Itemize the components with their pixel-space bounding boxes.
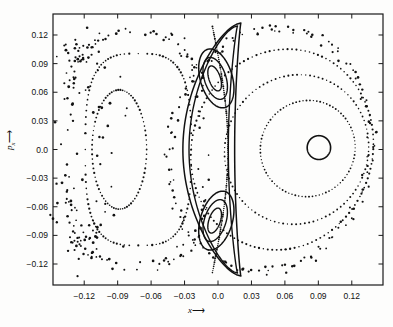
poincare-section-plot	[0, 0, 393, 327]
x-tick-label: 0.03	[243, 291, 260, 301]
series-right-middle-torus	[224, 74, 370, 225]
y-tick-label: −0.12	[12, 259, 48, 269]
x-tick-label: 0.06	[277, 291, 294, 301]
y-axis-label: px⟶	[4, 131, 16, 150]
y-tick-label: 0.06	[12, 87, 48, 97]
series-left-middle-torus	[84, 53, 192, 247]
x-axis-arrow-icon: ⟶	[192, 305, 204, 315]
series-island-upper-inner	[208, 66, 222, 91]
series-right-fixed-point-orbit	[307, 136, 330, 160]
x-tick-label: −0.03	[174, 291, 196, 301]
y-tick-label: 0.0	[12, 145, 48, 155]
x-axis-label: x⟶	[188, 305, 204, 315]
x-tick-label: −0.06	[140, 291, 162, 301]
series-left-outer-chaotic-band	[60, 28, 210, 271]
x-tick-label: 0.09	[310, 291, 327, 301]
y-axis-label-subscript: x	[9, 143, 16, 146]
x-tick-label: −0.12	[73, 291, 95, 301]
phase-space-figure: −0.12−0.09−0.06−0.030.00.030.060.090.12 …	[0, 0, 393, 327]
y-tick-label: 0.03	[12, 116, 48, 126]
x-tick-label: 0.12	[344, 291, 361, 301]
y-tick-label: −0.06	[12, 202, 48, 212]
y-tick-label: −0.09	[12, 230, 48, 240]
x-tick-label: −0.09	[107, 291, 129, 301]
x-tick-label: 0.0	[212, 291, 224, 301]
y-tick-label: 0.09	[12, 59, 48, 69]
y-axis-arrow-icon: ⟶	[4, 131, 14, 143]
series-left-chaotic-scatter	[49, 26, 128, 277]
series-right-outermost-chaotic-band	[164, 24, 378, 275]
trajectory-curves	[49, 23, 377, 277]
series-right-outer-torus	[190, 48, 375, 251]
y-axis-label-text: p	[4, 146, 14, 151]
y-tick-label: 0.12	[12, 30, 48, 40]
y-tick-label: −0.03	[12, 173, 48, 183]
